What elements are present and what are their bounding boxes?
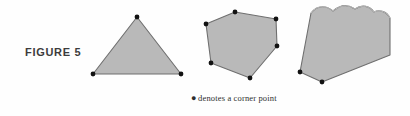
corner-point-dot	[179, 72, 184, 77]
bullet-icon: ●	[191, 93, 197, 103]
corner-point-dot	[135, 15, 140, 20]
shape-wavy-top-wedge	[298, 6, 390, 85]
hexagon-outline	[206, 12, 277, 78]
corner-point-dot	[248, 76, 253, 81]
wavy-wedge-outline	[300, 6, 390, 82]
shape-triangle	[91, 15, 184, 77]
caption-text: denotes a corner point	[198, 93, 277, 103]
corner-point-dot	[91, 72, 96, 77]
corner-point-dot	[320, 80, 325, 85]
corner-point-dot	[274, 17, 279, 22]
corner-point-dot	[275, 44, 280, 49]
shape-hexagon	[204, 10, 280, 81]
figure-container: FIGURE 5 ●denotes a corner point	[0, 0, 410, 116]
corner-point-dot	[209, 61, 214, 66]
corner-point-dot	[233, 10, 238, 15]
figure-caption: ●denotes a corner point	[191, 93, 277, 103]
corner-point-dot	[298, 70, 303, 75]
corner-point-dot	[204, 22, 209, 27]
triangle-outline	[93, 17, 181, 74]
